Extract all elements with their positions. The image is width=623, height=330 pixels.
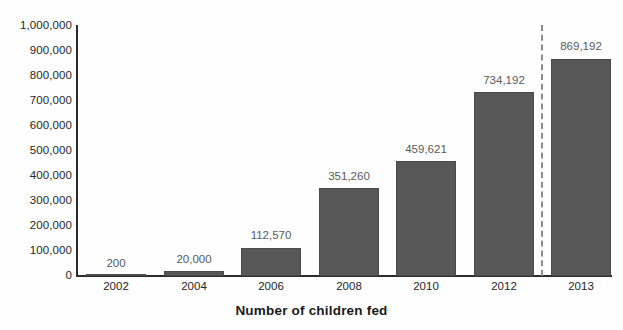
chart-title: Number of children fed [0,303,623,318]
bar-value-label-2012: 734,192 [474,75,534,87]
y-axis-tick-label: 0 [0,270,72,282]
y-axis-tick-label: 600,000 [0,120,72,132]
bar-value-label-2006: 112,570 [241,230,301,242]
bar-2013[interactable] [551,59,611,276]
bar-value-label-2008: 351,260 [319,171,379,183]
bar-value-label-2004: 20,000 [164,254,224,266]
bar-2002[interactable] [86,274,146,276]
plot-area: 200 20,000 112,570 351,260 459,621 734,1… [78,26,612,276]
x-axis-tick-label-2002: 2002 [86,281,146,293]
bar-value-label-2010: 459,621 [396,144,456,156]
y-axis-tick-label: 1,000,000 [0,20,72,32]
x-axis-tick-label-2006: 2006 [241,281,301,293]
x-axis-tick-label-2012: 2012 [474,281,534,293]
y-axis-tick-label: 100,000 [0,245,72,257]
y-axis-tick-label: 800,000 [0,70,72,82]
x-axis-tick-label-2013: 2013 [551,281,611,293]
bar-value-label-2002: 200 [86,258,146,270]
x-axis-tick-label-2008: 2008 [319,281,379,293]
y-axis-tick-label: 500,000 [0,145,72,157]
period-divider-line [541,25,543,276]
x-axis-tick-label-2010: 2010 [396,281,456,293]
bar-2006[interactable] [241,248,301,276]
bar-2004[interactable] [164,271,224,276]
bar-2012[interactable] [474,92,534,276]
bar-2010[interactable] [396,161,456,276]
x-axis-tick-label-2004: 2004 [164,281,224,293]
y-axis-tick-label: 900,000 [0,45,72,57]
y-axis-tick-labels: 1,000,000 900,000 800,000 700,000 600,00… [0,0,72,330]
bar-chart: 1,000,000 900,000 800,000 700,000 600,00… [0,0,623,330]
bar-2008[interactable] [319,188,379,276]
y-axis-tick-label: 700,000 [0,95,72,107]
y-axis-tick-label: 200,000 [0,220,72,232]
bar-value-label-2013: 869,192 [551,41,611,53]
y-axis-tick-label: 300,000 [0,195,72,207]
y-axis-tick-label: 400,000 [0,170,72,182]
